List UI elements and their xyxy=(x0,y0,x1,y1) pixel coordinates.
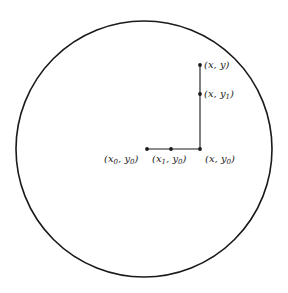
label-x1-y0: (x1, y0) xyxy=(152,153,187,166)
point-x-y1 xyxy=(198,92,202,96)
label-x-y1: (x, y1) xyxy=(204,88,234,101)
label-x0-y0: (x0, y0) xyxy=(104,153,139,166)
boundary-circle xyxy=(16,21,272,277)
point-x-y0 xyxy=(198,147,202,151)
label-x-y0: (x, y0) xyxy=(205,153,235,166)
point-x1-y0 xyxy=(169,147,173,151)
label-x-y: (x, y) xyxy=(204,59,230,70)
point-x0-y0 xyxy=(145,147,149,151)
diagram-canvas: (x, y) (x, y1) (x0, y0) (x1, y0) (x, y0) xyxy=(0,0,288,293)
point-x-y xyxy=(198,63,202,67)
path-line xyxy=(147,65,200,149)
